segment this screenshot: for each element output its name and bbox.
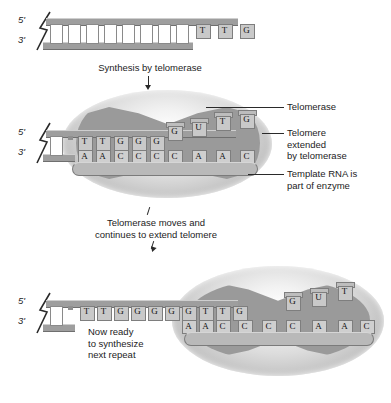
- base-letter: A: [183, 321, 194, 331]
- base-letter: G: [169, 126, 180, 136]
- base-letter: G: [149, 306, 160, 316]
- base-letter: A: [313, 321, 324, 331]
- base-letter: T: [219, 25, 230, 35]
- moves-arrow-shaft-top: [147, 207, 150, 215]
- panel-bottom-three-prime: 3': [18, 315, 25, 326]
- base-letter: C: [241, 151, 252, 161]
- panel-bottom: 5' 3' T T G G G: [0, 262, 391, 403]
- panel-middle-five-prime: 5': [18, 126, 25, 137]
- base-pair-rung: [50, 306, 63, 326]
- base-pair-rung: [158, 24, 171, 44]
- base-letter: C: [133, 151, 144, 161]
- base-letter: G: [115, 136, 126, 146]
- base-letter: A: [200, 321, 211, 331]
- telomere-extended-leader-line: [262, 133, 284, 134]
- panel-top-three-prime: 3': [18, 34, 25, 45]
- base-letter: A: [217, 151, 228, 161]
- panel-top: 5' 3' T T G: [0, 0, 391, 60]
- base-letter: C: [239, 321, 250, 331]
- base-letter: U: [313, 292, 324, 302]
- base-pair-rung: [122, 24, 135, 44]
- base-letter: T: [197, 25, 208, 35]
- base-letter: C: [217, 321, 228, 331]
- base-pair-rung: [50, 136, 63, 156]
- base-letter: G: [183, 306, 194, 316]
- label-telomere-extended: Telomere extended by telomerase: [287, 127, 347, 162]
- caption-now-ready: Now ready to synthesize next repeat: [88, 326, 184, 361]
- base-letter: G: [151, 136, 162, 146]
- base-letter: C: [115, 151, 126, 161]
- backbone-tick: [68, 136, 73, 140]
- template-rna-backbone: [72, 162, 258, 176]
- base-letter: T: [79, 136, 90, 146]
- base-letter: T: [97, 136, 108, 146]
- base-letter: G: [115, 306, 126, 316]
- base-pair-rung: [68, 24, 81, 44]
- caption-telomerase-moves: Telomerase moves and continues to extend…: [56, 217, 256, 240]
- panel-bottom-five-prime: 5': [18, 295, 25, 306]
- label-template-rna: Template RNA is part of enzyme: [287, 168, 357, 191]
- template-rna-leader-line: [248, 174, 284, 175]
- panel-middle-three-prime: 3': [18, 146, 25, 157]
- base-letter: T: [81, 306, 92, 316]
- figure-canvas: 5' 3' T T G: [0, 0, 391, 403]
- base-letter: T: [217, 116, 228, 126]
- base-letter: G: [241, 25, 252, 35]
- base-letter: U: [193, 122, 204, 132]
- base-letter: C: [169, 151, 180, 161]
- base-pair-rung: [86, 24, 99, 44]
- base-letter: C: [287, 321, 298, 331]
- base-letter: C: [263, 321, 274, 331]
- base-letter: G: [287, 296, 298, 306]
- base-letter: A: [339, 321, 350, 331]
- base-pair-rung: [50, 24, 63, 44]
- base-letter: C: [151, 151, 162, 161]
- panel-top-five-prime: 5': [18, 14, 25, 25]
- base-letter: G: [234, 306, 245, 316]
- label-telomerase: Telomerase: [287, 101, 336, 113]
- base-letter: G: [132, 306, 143, 316]
- base-letter: G: [133, 136, 144, 146]
- base-letter: G: [241, 114, 252, 124]
- telomerase-leader-line: [206, 107, 284, 108]
- base-pair-rung: [140, 24, 153, 44]
- moves-arrow-head: [149, 246, 156, 253]
- base-letter: A: [97, 151, 108, 161]
- base-letter: A: [79, 151, 90, 161]
- base-letter: T: [339, 286, 350, 296]
- caption-synthesis: Synthesis by telomerase: [60, 62, 240, 74]
- base-pair-rung: [176, 24, 189, 44]
- base-pair-rung: [104, 24, 117, 44]
- base-letter: G: [166, 306, 177, 316]
- template-rna-backbone: [184, 332, 374, 346]
- base-letter: T: [200, 306, 211, 316]
- base-letter: T: [98, 306, 109, 316]
- base-letter: A: [193, 151, 204, 161]
- base-letter: T: [217, 306, 228, 316]
- backbone-tick: [68, 306, 73, 310]
- base-letter: C: [361, 321, 372, 331]
